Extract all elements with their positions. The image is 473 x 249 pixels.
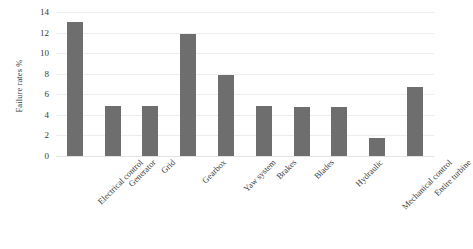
bar bbox=[369, 138, 385, 157]
x-axis-tick-label: Gearbox bbox=[201, 158, 229, 186]
x-axis-tick-label: Hydraulic bbox=[354, 158, 385, 189]
bar bbox=[256, 106, 272, 156]
y-axis-tick-label: 6 bbox=[45, 90, 50, 99]
y-axis-tick-label: 14 bbox=[40, 8, 49, 17]
bar-slot bbox=[321, 12, 359, 156]
bar bbox=[142, 106, 158, 156]
bar-series bbox=[56, 12, 434, 156]
bar-slot bbox=[283, 12, 321, 156]
y-axis-tick-label: 12 bbox=[40, 28, 49, 37]
x-axis-tick-labels: Electrical controlGeneratorGridGearboxYa… bbox=[56, 158, 434, 248]
x-axis-tick-label: Brakes bbox=[275, 158, 299, 182]
bar bbox=[331, 107, 347, 156]
bar bbox=[105, 106, 121, 156]
bar-slot bbox=[245, 12, 283, 156]
y-axis-tick-label: 8 bbox=[45, 69, 50, 78]
bar bbox=[180, 34, 196, 156]
bar bbox=[294, 107, 310, 156]
plot-area: 02468101214 bbox=[56, 12, 434, 156]
y-axis-tick-label: 4 bbox=[45, 110, 50, 119]
x-axis-tick-label: Grid bbox=[159, 158, 177, 176]
bar bbox=[67, 22, 83, 156]
bar-slot bbox=[396, 12, 434, 156]
y-axis-tick-label: 0 bbox=[45, 152, 50, 161]
bar bbox=[407, 87, 423, 156]
bar-slot bbox=[132, 12, 170, 156]
bar-slot bbox=[56, 12, 94, 156]
x-axis-tick-label: Yaw system bbox=[242, 158, 278, 194]
bar-slot bbox=[358, 12, 396, 156]
y-axis-tick-label: 2 bbox=[45, 131, 50, 140]
bar-slot bbox=[207, 12, 245, 156]
y-axis-title: Failure rates % bbox=[14, 36, 28, 136]
y-axis-tick-label: 10 bbox=[40, 49, 49, 58]
bar bbox=[218, 75, 234, 156]
bar-slot bbox=[94, 12, 132, 156]
x-axis-tick-label: Blades bbox=[313, 158, 336, 181]
bar-slot bbox=[169, 12, 207, 156]
